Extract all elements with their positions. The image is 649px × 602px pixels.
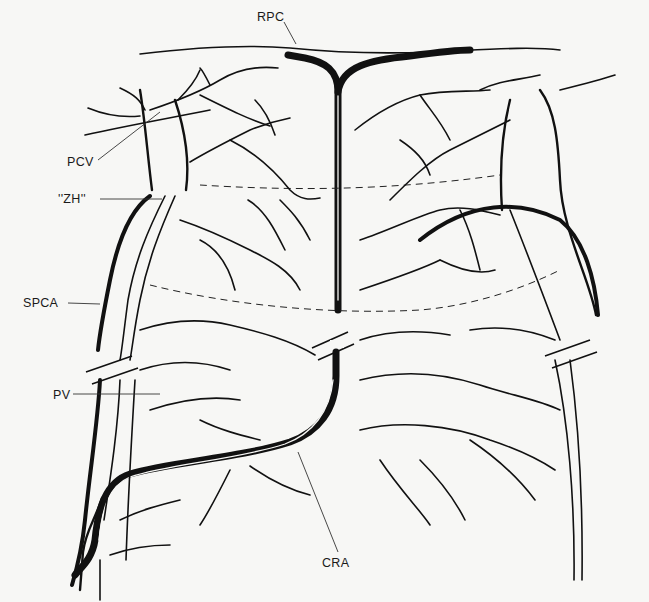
retinal-branches-right bbox=[355, 75, 615, 290]
label-cra: CRA bbox=[322, 556, 349, 570]
label-zh: ''ZH'' bbox=[58, 192, 86, 206]
zone-boundary-dashes bbox=[150, 175, 560, 311]
label-pcv: PCV bbox=[67, 155, 94, 169]
label-rpc: RPC bbox=[257, 10, 284, 24]
vascular-diagram bbox=[0, 0, 649, 602]
label-pv: PV bbox=[53, 388, 70, 402]
label-spca: SPCA bbox=[23, 296, 58, 310]
retinal-branches bbox=[88, 67, 320, 290]
